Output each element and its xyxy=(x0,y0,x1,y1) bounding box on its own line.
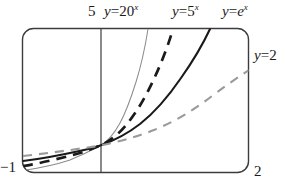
curve-label-y-2x: y=2 xyxy=(254,48,277,63)
curve-label-y-20x-exponent: x xyxy=(134,2,138,12)
curve-label-y-2x-op: = xyxy=(261,47,269,63)
curve-label-y-ex-exponent: x xyxy=(244,2,248,12)
x-axis-max-tick-label: 2 xyxy=(254,164,262,179)
curve-label-y-2x-lhs: y xyxy=(254,47,261,63)
curve-label-y-5x-base: 5 xyxy=(187,3,195,19)
curve-label-y-5x-exponent: x xyxy=(195,2,199,12)
curve-label-y-2x-base: 2 xyxy=(269,47,277,63)
curve-label-y-5x-lhs: y xyxy=(172,3,179,19)
curve-label-y-5x: y=5x xyxy=(172,4,199,19)
exponential-functions-figure: 5 y=20x y=5x y=ex y=2 −1 2 xyxy=(0,0,288,188)
curve-label-y-20x-op: = xyxy=(111,3,119,19)
curve-label-y-ex: y=ex xyxy=(222,4,248,19)
y-axis-max-tick-label: 5 xyxy=(88,4,96,19)
plot-area xyxy=(0,0,288,188)
curve-label-y-20x-lhs: y xyxy=(104,3,111,19)
curve-label-y-ex-lhs: y xyxy=(222,3,229,19)
x-axis-min-tick-label: −1 xyxy=(0,160,16,175)
curve-label-y-ex-base: e xyxy=(237,3,244,19)
curve-label-y-20x-base: 20 xyxy=(119,3,134,19)
curve-label-y-5x-op: = xyxy=(179,3,187,19)
curve-label-y-ex-op: = xyxy=(229,3,237,19)
curve-label-y-20x: y=20x xyxy=(104,4,138,19)
